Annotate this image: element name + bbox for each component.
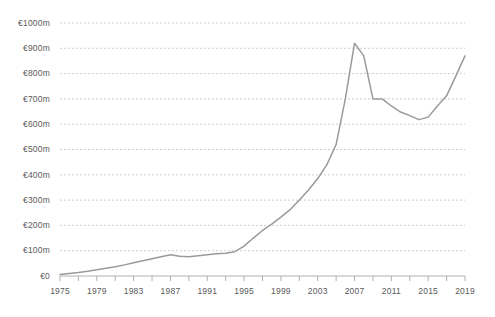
x-axis-tick-label: 1999 xyxy=(271,286,291,296)
x-axis-tick-label: 1991 xyxy=(197,286,217,296)
x-axis-tick-label: 2003 xyxy=(308,286,328,296)
x-axis-tick-labels: 1975197919831987199119951999200320072011… xyxy=(50,286,475,296)
y-axis-tick-label: €1000m xyxy=(18,18,50,28)
x-axis-tick-label: 2011 xyxy=(382,286,401,296)
y-axis-tick-label: €300m xyxy=(23,195,50,205)
x-axis-tick-label: 1979 xyxy=(87,286,107,296)
y-axis-tick-label: €400m xyxy=(23,170,50,180)
x-axis-tick-label: 1983 xyxy=(124,286,144,296)
y-axis-tick-label: €0 xyxy=(40,271,50,281)
series-line xyxy=(60,43,465,274)
y-axis-tick-label: €800m xyxy=(23,68,50,78)
x-axis-tick-label: 1975 xyxy=(50,286,70,296)
data-series xyxy=(60,43,465,274)
x-axis-tick-label: 2007 xyxy=(345,286,365,296)
gridlines xyxy=(60,23,465,251)
x-axis-tick-label: 1987 xyxy=(161,286,181,296)
x-axis-tick-label: 2015 xyxy=(418,286,438,296)
y-axis-tick-label: €500m xyxy=(23,144,50,154)
y-axis-tick-labels: €1000m€900m€800m€700m€600m€500m€400m€300… xyxy=(18,18,50,281)
y-axis-tick-label: €600m xyxy=(23,119,50,129)
y-axis-tick-label: €100m xyxy=(23,245,50,255)
x-axis-tick-label: 1995 xyxy=(234,286,254,296)
y-axis-tick-label: €700m xyxy=(23,94,50,104)
line-chart: €1000m€900m€800m€700m€600m€500m€400m€300… xyxy=(0,0,495,317)
y-axis-tick-label: €200m xyxy=(23,220,50,230)
chart-canvas: €1000m€900m€800m€700m€600m€500m€400m€300… xyxy=(0,0,495,317)
x-axis-tick-marks xyxy=(60,276,465,281)
y-axis-tick-label: €900m xyxy=(23,43,50,53)
x-axis-tick-label: 2019 xyxy=(455,286,475,296)
